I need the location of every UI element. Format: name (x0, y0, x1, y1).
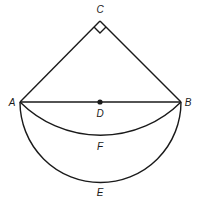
right-angle-marker (94, 27, 106, 33)
label-c: C (96, 4, 104, 15)
label-e: E (97, 187, 104, 198)
segment-ac (20, 21, 100, 102)
label-d: D (96, 108, 103, 119)
geometry-diagram: C A B D F E (0, 0, 200, 206)
label-a: A (8, 97, 16, 108)
segment-bc (100, 21, 181, 102)
label-b: B (185, 97, 192, 108)
point-d-dot (97, 99, 102, 104)
label-f: F (97, 141, 104, 152)
